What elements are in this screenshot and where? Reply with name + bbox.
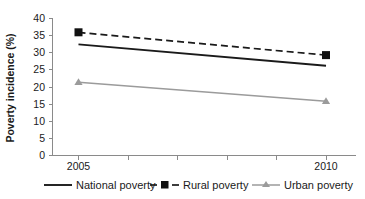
y-tick-30: 30 <box>33 46 45 58</box>
urban-poverty-marker-2005 <box>74 78 82 85</box>
poverty-incidence-chart: Poverty incidence (%) 40 35 30 25 20 15 … <box>0 0 365 199</box>
legend-swatch-rural-square <box>161 181 169 189</box>
y-tick-0: 0 <box>39 149 45 161</box>
x-tick-label-2010: 2010 <box>314 160 338 172</box>
chart-canvas: Poverty incidence (%) 40 35 30 25 20 15 … <box>0 0 365 199</box>
rural-poverty-marker-2005 <box>75 28 83 36</box>
x-axis <box>53 156 357 160</box>
y-axis <box>49 18 53 156</box>
legend-label-urban-poverty: Urban poverty <box>284 179 354 191</box>
legend-label-national-poverty: National poverty <box>76 179 156 191</box>
legend-swatch-urban-triangle <box>262 181 270 187</box>
y-tick-20: 20 <box>33 81 45 93</box>
y-axis-tick-labels: 40 35 30 25 20 15 10 5 0 <box>33 12 45 161</box>
rural-poverty-marker-2010 <box>322 51 330 59</box>
legend-item-rural-poverty[interactable]: Rural poverty <box>150 179 249 191</box>
x-tick-label-2005: 2005 <box>67 160 91 172</box>
series-urban-poverty <box>74 78 330 104</box>
y-tick-10: 10 <box>33 115 45 127</box>
legend-item-urban-poverty[interactable]: Urban poverty <box>252 179 354 191</box>
y-tick-40: 40 <box>33 12 45 24</box>
legend-label-rural-poverty: Rural poverty <box>183 179 249 191</box>
x-axis-tick-labels: 2005 2010 <box>67 160 338 172</box>
y-tick-35: 35 <box>33 29 45 41</box>
chart-legend: National poverty Rural poverty Urban pov… <box>44 179 354 191</box>
rural-poverty-line <box>79 32 327 55</box>
y-tick-15: 15 <box>33 98 45 110</box>
y-tick-25: 25 <box>33 63 45 75</box>
y-axis-title: Poverty incidence (%) <box>4 33 16 142</box>
national-poverty-line <box>79 44 327 65</box>
legend-item-national-poverty[interactable]: National poverty <box>44 179 156 191</box>
urban-poverty-line <box>79 82 327 101</box>
series-national-poverty <box>79 44 327 65</box>
y-tick-5: 5 <box>39 132 45 144</box>
